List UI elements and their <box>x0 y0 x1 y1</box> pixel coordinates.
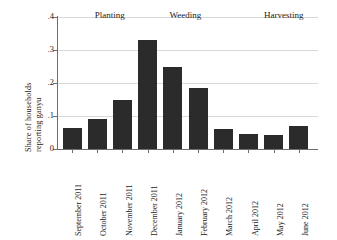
bar <box>88 119 107 149</box>
bar <box>163 67 182 149</box>
y-axis-tick-label: .4 <box>14 13 54 21</box>
y-axis-tick-label: .2 <box>14 79 54 87</box>
bar <box>214 129 233 149</box>
x-axis-tick-mark <box>248 150 249 153</box>
x-axis-tick-mark <box>173 150 174 153</box>
x-axis-tick-label: December 2011 <box>151 185 159 236</box>
x-axis-tick-label: May 2012 <box>277 203 285 236</box>
bar <box>239 134 258 149</box>
x-axis-tick-label: November 2011 <box>126 185 134 236</box>
x-axis-tick-mark <box>223 150 224 153</box>
bar <box>113 100 132 149</box>
x-axis-tick-label: January 2012 <box>176 193 184 236</box>
season-label: Planting <box>95 10 125 20</box>
x-axis-tick-label: April 2012 <box>252 201 260 236</box>
bar <box>63 128 82 149</box>
bar <box>189 88 208 149</box>
x-axis-tick-label: October 2011 <box>100 193 108 236</box>
y-axis-tick-label: 0 <box>14 145 54 153</box>
x-axis-tick-label: March 2012 <box>226 197 234 236</box>
season-label: Weeding <box>170 10 202 20</box>
x-axis-tick-label: September 2011 <box>75 184 83 236</box>
bar <box>289 126 308 149</box>
x-axis-tick-mark <box>97 150 98 153</box>
x-axis-tick-mark <box>122 150 123 153</box>
bar <box>264 135 283 149</box>
x-axis-labels: September 2011October 2011November 2011D… <box>58 150 318 240</box>
bar <box>138 40 157 149</box>
x-axis-tick-label: June 2012 <box>302 203 310 236</box>
x-axis-tick-label: February 2012 <box>201 189 209 236</box>
bar-series <box>58 17 318 149</box>
x-axis-tick-mark <box>148 150 149 153</box>
bar-chart: Share of households reporting ganyu 0.1.… <box>0 0 337 240</box>
season-label: Harvesting <box>264 10 304 20</box>
x-axis-tick-mark <box>274 150 275 153</box>
y-axis-tick-label: .1 <box>14 112 54 120</box>
y-axis-tick-label: .3 <box>14 46 54 54</box>
x-axis-tick-mark <box>198 150 199 153</box>
x-axis-tick-mark <box>72 150 73 153</box>
x-axis-tick-mark <box>299 150 300 153</box>
